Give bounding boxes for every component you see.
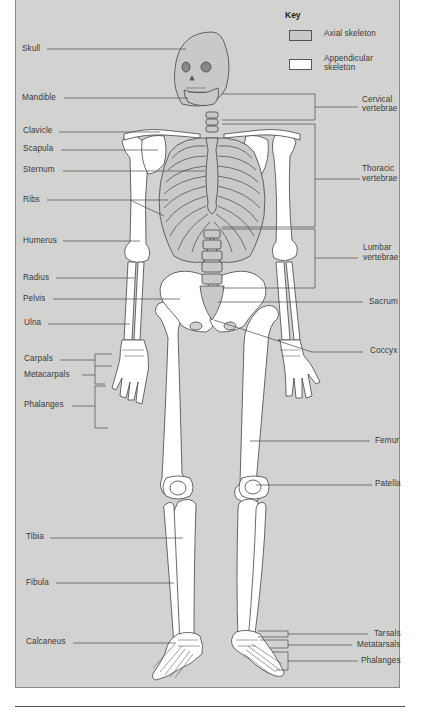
- humerus-right: [272, 132, 297, 260]
- eye-socket-right: [201, 62, 211, 72]
- label-patella: Patella: [375, 479, 401, 489]
- radius-ulna-right: [276, 262, 300, 340]
- label-clavicle: Clavicle: [23, 126, 52, 136]
- label-thoracic-1: Thoracic: [362, 164, 394, 174]
- femur-right: [235, 305, 279, 502]
- label-lumbar-1: Lumbar: [363, 243, 391, 253]
- radius-ulna-left: [124, 262, 144, 340]
- label-scapula: Scapula: [23, 144, 53, 154]
- label-pelvis: Pelvis: [23, 294, 45, 304]
- patella-left-icon: [170, 481, 186, 495]
- label-mandible: Mandible: [22, 93, 56, 103]
- skeleton-illustration: [0, 0, 421, 711]
- label-fibula: Fibula: [26, 578, 49, 588]
- label-sacrum: Sacrum: [369, 297, 398, 307]
- femur-left: [155, 301, 186, 495]
- label-tarsals: Tarsals: [374, 629, 401, 639]
- label-sternum: Sternum: [23, 165, 55, 175]
- label-metacarpals: Metacarpals: [24, 370, 70, 380]
- label-humerus: Humerus: [23, 236, 57, 246]
- label-phalanges-foot: Phalanges: [361, 656, 401, 666]
- axial-swatch: [289, 30, 312, 41]
- sternum-icon: [206, 138, 218, 214]
- label-calcaneus: Calcaneus: [26, 637, 66, 647]
- hand-left: [112, 340, 149, 404]
- label-tibia: Tibia: [26, 532, 44, 542]
- scapula-left: [142, 136, 166, 175]
- label-cervical-2: vertebrae: [362, 104, 398, 114]
- label-skull: Skull: [22, 44, 40, 54]
- label-coccyx: Coccyx: [370, 346, 397, 356]
- label-phalanges-hand: Phalanges: [24, 400, 64, 410]
- appendicular-swatch: [289, 59, 312, 70]
- foot-left: [152, 632, 202, 680]
- key-axial-label: Axial skeleton: [324, 29, 376, 39]
- key-appendicular-label-2: skeleton: [324, 63, 355, 73]
- label-lumbar-2: vertebrae: [363, 253, 399, 263]
- label-metatarsals: Metatarsals: [357, 640, 400, 650]
- label-radius: Radius: [23, 273, 49, 283]
- label-carpals: Carpals: [24, 354, 53, 364]
- label-ribs: Ribs: [23, 195, 40, 205]
- hand-right: [278, 340, 320, 398]
- label-femur: Femur: [375, 436, 399, 446]
- label-thoracic-2: vertebrae: [362, 174, 398, 184]
- patella-right-icon: [245, 480, 261, 494]
- key-title: Key: [285, 10, 301, 20]
- label-ulna: Ulna: [24, 318, 41, 328]
- eye-socket-left: [182, 62, 190, 72]
